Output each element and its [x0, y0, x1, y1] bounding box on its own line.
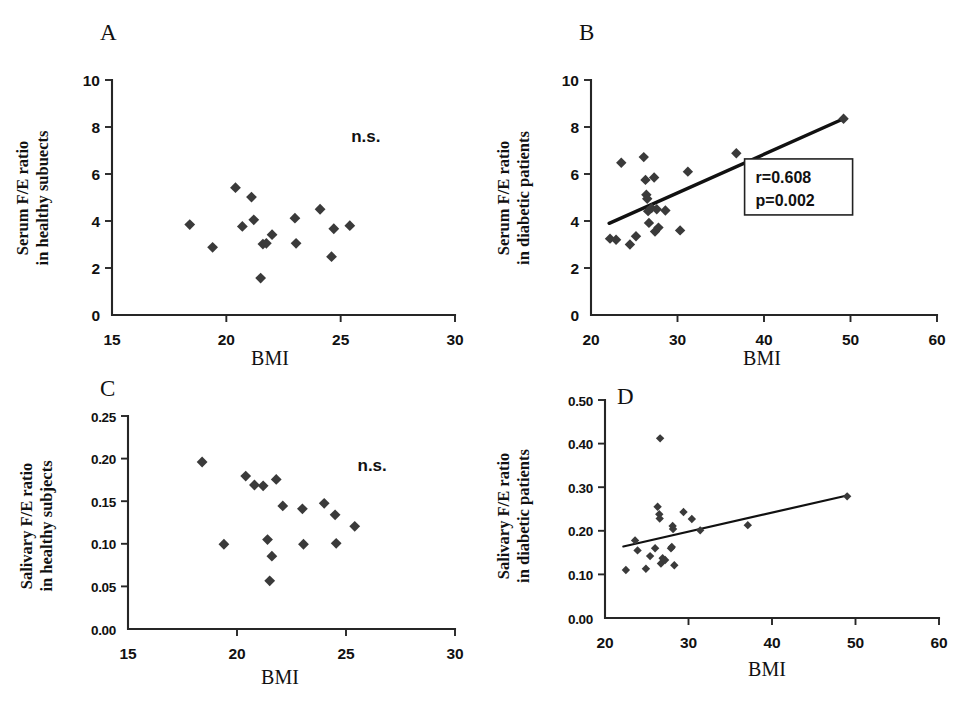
y-tick-label: 0.10: [91, 537, 116, 552]
x-tick-label: 30: [680, 634, 697, 651]
panel-b-yticks: 0246810: [562, 72, 591, 324]
y-tick-label: 0: [91, 307, 100, 324]
panel-d-fitline: [623, 495, 847, 546]
data-point: [631, 231, 641, 241]
data-point: [616, 158, 626, 168]
data-point: [670, 561, 678, 569]
panel-a: A 0246810 15202530 n.s. BMI Serum F/E ra…: [0, 18, 487, 378]
panel-a-y-axis-title-line2: in healthy subuects: [33, 130, 52, 265]
panel-b-y-axis-title-line1: Serum F/E ratio: [494, 141, 513, 256]
panel-c-plot: C 0.000.050.100.150.200.25 15202530 n.s.…: [0, 366, 487, 707]
x-tick-label: 30: [669, 331, 686, 348]
y-tick-label: 8: [570, 119, 579, 136]
y-tick-label: 0.00: [91, 623, 116, 638]
data-point: [625, 239, 635, 249]
data-point: [262, 534, 273, 545]
data-point: [266, 551, 277, 562]
panel-d-yticks: 0.000.100.200.300.400.50: [568, 394, 605, 627]
data-point: [349, 521, 360, 532]
data-point: [298, 539, 309, 550]
y-tick-label: 2: [570, 260, 579, 277]
data-point: [315, 204, 326, 215]
data-point: [675, 225, 685, 235]
panel-b: B 0246810 2030405060 r=0.608 p=0.002 BMI…: [487, 18, 974, 378]
y-tick-label: 0.50: [568, 394, 593, 409]
panel-c-yticks: 0.000.050.100.150.200.25: [91, 410, 128, 638]
stats-r-value: r=0.608: [756, 169, 812, 186]
data-point: [651, 544, 659, 552]
regression-line: [623, 495, 847, 546]
panel-d: D 0.000.100.200.300.400.50 2030405060 BM…: [487, 366, 974, 707]
y-tick-label: 0.40: [568, 437, 593, 452]
data-point: [240, 471, 251, 482]
panel-c-points: [197, 457, 360, 587]
data-point: [744, 521, 752, 529]
panel-a-ns-annotation: n.s.: [351, 127, 380, 146]
panel-d-letter: D: [617, 384, 634, 409]
data-point: [731, 148, 741, 158]
y-tick-label: 8: [91, 119, 100, 136]
data-point: [237, 221, 248, 232]
panel-d-x-axis-title: BMI: [748, 658, 786, 680]
panel-a-xticks: 15202530: [103, 315, 463, 348]
data-point: [660, 205, 670, 215]
y-tick-label: 0.25: [91, 410, 117, 425]
data-point: [264, 575, 275, 586]
y-tick-label: 0.15: [91, 495, 117, 510]
x-tick-label: 50: [847, 634, 864, 651]
data-point: [291, 238, 302, 249]
x-tick-label: 20: [582, 331, 599, 348]
data-point: [344, 220, 355, 231]
data-point: [331, 538, 342, 549]
data-point: [207, 242, 218, 253]
data-point: [249, 480, 260, 491]
data-point: [622, 566, 630, 574]
panel-a-yticks: 0246810: [83, 72, 112, 324]
x-tick-label: 40: [763, 634, 780, 651]
stats-p-value: p=0.002: [756, 192, 815, 209]
panel-a-points: [184, 182, 355, 283]
data-point: [838, 114, 848, 124]
y-tick-label: 0.05: [91, 580, 117, 595]
x-tick-label: 30: [446, 645, 463, 662]
data-point: [633, 546, 641, 554]
panel-c-y-axis-title-line1: Salivary F/E ratio: [17, 463, 36, 590]
panel-b-plot: B 0246810 2030405060 r=0.608 p=0.002 BMI…: [487, 18, 974, 378]
data-point: [246, 192, 257, 203]
data-point: [679, 508, 687, 516]
panel-c: C 0.000.050.100.150.200.25 15202530 n.s.…: [0, 366, 487, 707]
y-tick-label: 0.10: [568, 568, 593, 583]
x-tick-label: 25: [337, 645, 355, 662]
x-tick-label: 20: [596, 634, 613, 651]
panel-c-x-axis-title: BMI: [261, 666, 299, 688]
data-point: [267, 229, 278, 240]
data-point: [258, 480, 269, 491]
x-tick-label: 25: [332, 331, 350, 348]
data-point: [184, 219, 195, 230]
data-point: [640, 175, 650, 185]
x-tick-label: 50: [842, 331, 859, 348]
x-tick-label: 40: [755, 331, 772, 348]
panel-a-axes: [112, 80, 455, 315]
data-point: [326, 251, 337, 262]
data-point: [248, 214, 259, 225]
data-point: [219, 539, 230, 550]
x-tick-label: 30: [446, 331, 463, 348]
y-tick-label: 6: [91, 166, 100, 183]
x-tick-label: 15: [103, 331, 121, 348]
data-point: [688, 515, 696, 523]
panel-c-xticks: 15202530: [119, 629, 463, 662]
y-tick-label: 4: [91, 213, 100, 230]
panel-b-y-axis-title-line2: in diabetic patients: [514, 131, 533, 265]
panel-a-plot: A 0246810 15202530 n.s. BMI Serum F/E ra…: [0, 18, 487, 378]
panel-d-y-axis-title-line1: Salivary F/E ratio: [494, 453, 513, 580]
data-point: [290, 213, 301, 224]
x-tick-label: 20: [228, 645, 245, 662]
y-tick-label: 0.00: [568, 612, 593, 627]
panel-d-axes: [605, 400, 939, 618]
figure-panels: A 0246810 15202530 n.s. BMI Serum F/E ra…: [0, 0, 974, 707]
data-point: [656, 434, 664, 442]
panel-b-xticks: 2030405060: [582, 315, 945, 348]
panel-b-letter: B: [579, 20, 594, 45]
data-point: [328, 223, 339, 234]
